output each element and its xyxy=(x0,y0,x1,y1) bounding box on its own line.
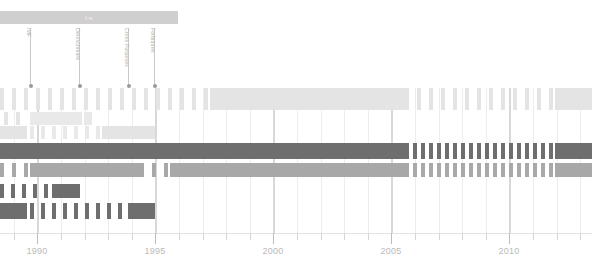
timeline-bar-tick xyxy=(12,163,16,177)
axis-tick-minor xyxy=(439,233,440,240)
timeline-bar-segment xyxy=(555,88,592,110)
timeline-bar-tick xyxy=(513,88,517,110)
timeline-row xyxy=(0,143,592,159)
timeline-bar-tick xyxy=(24,88,28,110)
timeline-bar-tick xyxy=(63,203,67,219)
timeline-row xyxy=(0,88,592,110)
axis-tick-minor xyxy=(85,233,86,240)
axis-tick-minor xyxy=(486,233,487,240)
timeline-bar-tick xyxy=(413,163,417,177)
timeline-bar-tick xyxy=(517,163,521,177)
timeline-bar-segment xyxy=(555,143,592,159)
timeline-bar-tick xyxy=(501,143,505,159)
timeline-bar-segment xyxy=(102,126,155,139)
timeline-bar-tick xyxy=(4,112,8,125)
axis-tick-label: 2000 xyxy=(262,246,283,256)
timeline-bar-tick xyxy=(549,88,553,110)
timeline-bar-tick xyxy=(118,203,122,219)
timeline-bar-tick xyxy=(108,88,112,110)
timeline-bar-tick xyxy=(489,88,493,110)
axis-tick-label: 1995 xyxy=(144,246,165,256)
timeline-bar-tick xyxy=(156,88,160,110)
timeline-bar-tick xyxy=(509,163,513,177)
timeline-row xyxy=(0,163,592,177)
timeline-bar-tick xyxy=(501,163,505,177)
callout-label: Deutschmark xyxy=(75,28,81,60)
callout-label: Forbidden xyxy=(150,28,156,53)
axis-tick-label: 2005 xyxy=(380,246,401,256)
timeline-bar-tick xyxy=(72,88,76,110)
timeline-bar-tick xyxy=(469,163,473,177)
timeline-bar-tick xyxy=(0,88,4,110)
axis-tick-minor xyxy=(462,233,463,240)
axis-tick-minor xyxy=(533,233,534,240)
timeline-bar-tick xyxy=(429,88,433,110)
timeline-bar-segment xyxy=(52,184,80,198)
axis-tick-minor xyxy=(321,233,322,240)
timeline-bar-tick xyxy=(429,163,433,177)
timeline-bar-tick xyxy=(445,143,449,159)
timeline-bar-tick xyxy=(164,163,168,177)
timeline-bar-tick xyxy=(74,126,78,139)
timeline-bar-tick xyxy=(405,88,409,110)
callout-label: Cross Purposes xyxy=(124,28,130,67)
timeline-bar-tick xyxy=(445,163,449,177)
axis-tick-major xyxy=(37,233,38,244)
timeline-bar-tick xyxy=(453,143,457,159)
timeline-bar-segment xyxy=(84,112,92,125)
timeline-bar-tick xyxy=(11,184,15,198)
axis-tick-major xyxy=(509,233,510,244)
axis-tick-minor xyxy=(203,233,204,240)
timeline-bar-tick xyxy=(541,143,545,159)
timeline-bar-segment xyxy=(210,88,405,110)
timeline-bar-tick xyxy=(533,163,537,177)
timeline-bar-tick xyxy=(63,126,67,139)
timeline-bar-tick xyxy=(0,163,4,177)
timeline-bar-tick xyxy=(501,88,505,110)
timeline-bar-tick xyxy=(41,203,45,219)
timeline-bar-tick xyxy=(461,163,465,177)
timeline-row xyxy=(0,112,592,125)
timeline-bar-tick xyxy=(405,163,409,177)
axis-tick-major xyxy=(391,233,392,244)
timeline-bar-tick xyxy=(36,88,40,110)
timeline-bar-tick xyxy=(441,88,445,110)
axis-tick-minor xyxy=(179,233,180,240)
axis-tick-minor xyxy=(108,233,109,240)
timeline-bar-tick xyxy=(405,143,409,159)
timeline-bar-tick xyxy=(453,163,457,177)
timeline-bar-tick xyxy=(417,88,421,110)
timeline-bar-tick xyxy=(549,143,553,159)
timeline-row xyxy=(0,184,592,198)
timeline-bar-tick xyxy=(107,203,111,219)
timeline-bar-tick xyxy=(120,88,124,110)
axis-tick-minor xyxy=(226,233,227,240)
timeline-row xyxy=(0,126,592,139)
timeline-bar-tick xyxy=(413,143,417,159)
axis-tick-major xyxy=(155,233,156,244)
timeline-bar-tick xyxy=(0,184,4,198)
timeline-bar-tick xyxy=(192,88,196,110)
timeline-bar-tick xyxy=(533,143,537,159)
timeline-bar-tick xyxy=(52,126,56,139)
timeline-bar-tick xyxy=(525,143,529,159)
timeline-bar-tick xyxy=(465,88,469,110)
timeline-bar-tick xyxy=(84,88,88,110)
timeline-bar-tick xyxy=(168,88,172,110)
timeline-bar-tick xyxy=(33,184,37,198)
timeline-bar-tick xyxy=(48,88,52,110)
timeline-bar-tick xyxy=(453,88,457,110)
timeline-bar-tick xyxy=(477,88,481,110)
timeline-bar-tick xyxy=(22,184,26,198)
axis-tick-minor xyxy=(580,233,581,240)
axis-tick-minor xyxy=(415,233,416,240)
timeline-bar-tick xyxy=(477,163,481,177)
timeline-bar-tick xyxy=(152,163,156,177)
axis-tick-minor xyxy=(368,233,369,240)
era-band-label: Irs xyxy=(85,15,93,21)
axis-tick-label: 1990 xyxy=(26,246,47,256)
timeline-bar-tick xyxy=(461,143,465,159)
callout-label: IMF xyxy=(26,28,32,37)
timeline-bar-tick xyxy=(41,126,45,139)
timeline-bar-tick xyxy=(421,163,425,177)
